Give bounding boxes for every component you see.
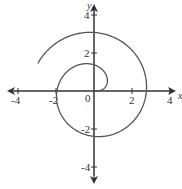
y-axis-label: y: [86, 0, 92, 11]
spiral-curve: [38, 32, 147, 136]
x-tick-label: 4: [167, 94, 173, 106]
origin-label: 0: [85, 92, 91, 104]
spiral-graph: -4-22442-2-4 x y 0: [0, 0, 182, 189]
x-axis-label: x: [177, 90, 182, 101]
y-tick-label: 2: [84, 47, 90, 59]
x-tick-label: -4: [11, 94, 21, 106]
y-tick-label: -4: [81, 161, 91, 173]
x-tick-label: 2: [129, 94, 135, 106]
